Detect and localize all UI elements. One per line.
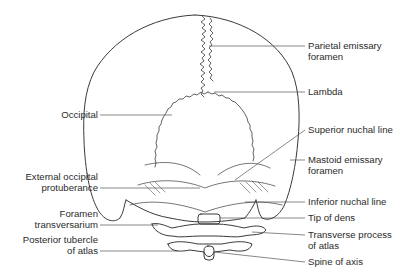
label-lambda: Lambda bbox=[308, 86, 343, 97]
label-text: Mastoid emissary bbox=[308, 154, 383, 165]
lambdoid-suture bbox=[155, 92, 208, 167]
label-text: of atlas bbox=[23, 245, 98, 256]
label-text: Inferior nuchal line bbox=[308, 196, 386, 207]
skull-posterior-view-diagram: Parietal emissary foramen Lambda Superio… bbox=[0, 0, 420, 278]
label-text: foramen bbox=[308, 165, 383, 176]
label-text: Tip of dens bbox=[308, 212, 355, 223]
label-text: Spine of axis bbox=[308, 256, 363, 267]
label-superior-nuchal-line: Superior nuchal line bbox=[308, 124, 393, 135]
label-text: Foramen bbox=[35, 208, 98, 219]
label-external-occipital-protuberance: External occipital protuberance bbox=[25, 171, 98, 193]
label-text: transversarium bbox=[35, 219, 98, 230]
label-inferior-nuchal-line: Inferior nuchal line bbox=[308, 196, 386, 207]
label-text: Transverse process bbox=[308, 229, 392, 240]
label-occipital: Occipital bbox=[61, 109, 98, 120]
label-parietal-emissary-foramen: Parietal emissary foramen bbox=[308, 40, 382, 62]
label-foramen-transversarium: Foramen transversarium bbox=[35, 208, 98, 230]
label-text: Superior nuchal line bbox=[308, 124, 393, 135]
label-text: foramen bbox=[308, 51, 382, 62]
axis-vertebra bbox=[168, 242, 252, 257]
label-text: Occipital bbox=[61, 109, 98, 120]
label-spine-of-axis: Spine of axis bbox=[308, 256, 363, 267]
label-posterior-tubercle-of-atlas: Posterior tubercle of atlas bbox=[23, 234, 98, 256]
label-tip-of-dens: Tip of dens bbox=[308, 212, 355, 223]
label-text: External occipital bbox=[25, 171, 98, 182]
label-mastoid-emissary-foramen: Mastoid emissary foramen bbox=[308, 154, 383, 176]
label-transverse-process-of-atlas: Transverse process of atlas bbox=[308, 229, 392, 251]
atlas-vertebra bbox=[152, 223, 266, 236]
label-text: Parietal emissary bbox=[308, 40, 382, 51]
label-text: Posterior tubercle bbox=[23, 234, 98, 245]
label-text: Lambda bbox=[308, 86, 343, 97]
label-text: protuberance bbox=[25, 182, 98, 193]
skull-outline bbox=[84, 15, 195, 221]
label-text: of atlas bbox=[308, 240, 392, 251]
sagittal-suture bbox=[200, 16, 206, 97]
